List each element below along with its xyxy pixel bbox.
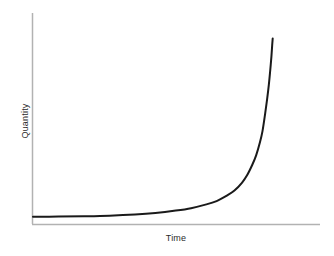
x-axis-label: Time (32, 233, 320, 243)
y-axis-label: Quantity (0, 0, 34, 256)
chart-plot-area (0, 0, 334, 256)
y-axis-label-text: Quantity (20, 103, 30, 152)
chart-container: Quantity Time (0, 0, 334, 256)
exponential-growth-curve (33, 39, 273, 217)
